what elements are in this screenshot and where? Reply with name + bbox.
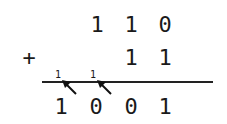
carry-arrow-icon — [97, 80, 111, 94]
carry-arrows — [0, 0, 227, 124]
result-digit: 1 — [155, 96, 175, 118]
result-digit: 0 — [121, 96, 141, 118]
result-digit: 1 — [51, 96, 71, 118]
carry-arrow-icon — [62, 80, 76, 94]
result-digit: 0 — [86, 96, 106, 118]
